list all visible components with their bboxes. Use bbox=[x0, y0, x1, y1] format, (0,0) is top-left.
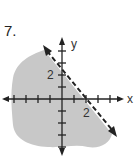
y-tick-label-2: 2 bbox=[47, 68, 54, 82]
inequality-graph: x y 2 2 bbox=[0, 0, 136, 159]
x-axis-arrow-right-icon bbox=[117, 96, 124, 102]
x-axis-label: x bbox=[127, 92, 133, 106]
x-tick-label-2: 2 bbox=[83, 106, 90, 120]
y-axis-arrow-up-icon bbox=[59, 37, 65, 45]
y-axis-arrow-down-icon bbox=[59, 148, 65, 156]
y-axis-label: y bbox=[71, 37, 77, 51]
x-axis-arrow-left-icon bbox=[2, 96, 9, 102]
